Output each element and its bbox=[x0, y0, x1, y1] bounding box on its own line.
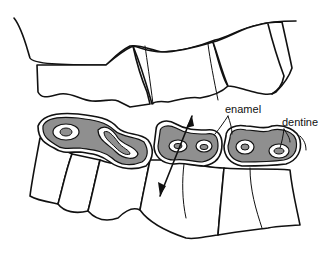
enamel-pointer-icon bbox=[215, 116, 228, 134]
upper-jaw bbox=[14, 18, 296, 107]
enamel-label: enamel bbox=[225, 103, 261, 115]
dentine-label: dentine bbox=[282, 116, 318, 128]
upper-tooth-1 bbox=[37, 46, 150, 107]
teeth-diagram: enamel dentine bbox=[0, 0, 332, 253]
lower-tooth-5 bbox=[218, 168, 300, 235]
lower-tooth-4 bbox=[140, 160, 224, 239]
